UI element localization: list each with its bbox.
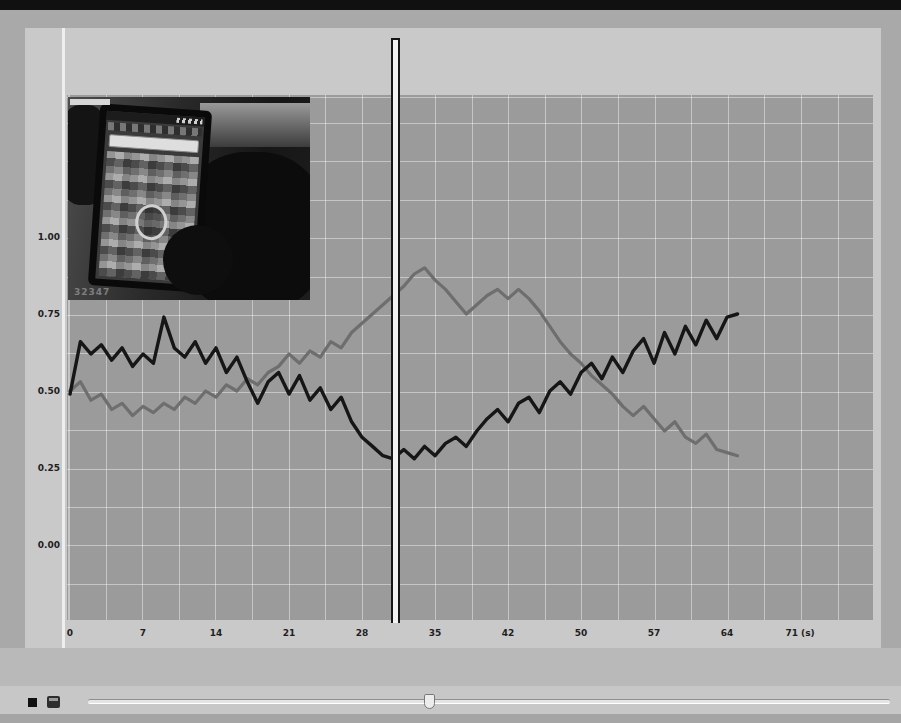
hand-thumb: [163, 225, 233, 295]
timeline-slider-thumb[interactable]: [424, 694, 435, 709]
x-tick-label: 35: [412, 627, 458, 639]
media-clip-button[interactable]: [47, 696, 60, 708]
video-timestamp: 32347: [74, 287, 110, 297]
y-tick-label: 0.50: [34, 385, 60, 397]
time-cursor[interactable]: [391, 38, 400, 623]
video-preview-overlay[interactable]: 32347: [68, 97, 310, 300]
x-tick-label: 50: [558, 627, 604, 639]
x-tick-label: 42: [485, 627, 531, 639]
video-background: [200, 103, 310, 147]
x-tick-label: 57: [631, 627, 677, 639]
bottom-strip: [0, 714, 901, 723]
y-tick-label: 0.75: [34, 308, 60, 320]
x-tick-label: 0: [47, 627, 93, 639]
y-axis-divider: [62, 28, 65, 648]
excitement-line: [70, 314, 738, 459]
x-tick-label: 7: [120, 627, 166, 639]
legend-band: FrustrationExcitement: [0, 648, 901, 686]
x-tick-label: 64: [704, 627, 750, 639]
x-tick-label: 71 (s): [777, 627, 823, 639]
clock-widget: [134, 203, 168, 241]
x-tick-label: 28: [339, 627, 385, 639]
x-tick-label: 14: [193, 627, 239, 639]
y-tick-label: 1.00: [34, 231, 60, 243]
phone-search-widget: [108, 134, 199, 153]
y-tick-label: 0.00: [34, 539, 60, 551]
window-top-bar: [0, 0, 901, 10]
stop-button[interactable]: [28, 698, 37, 707]
y-tick-label: 0.25: [34, 462, 60, 474]
x-tick-label: 21: [266, 627, 312, 639]
video-caption-box: [70, 99, 110, 105]
timeline-slider-track[interactable]: [88, 699, 890, 704]
